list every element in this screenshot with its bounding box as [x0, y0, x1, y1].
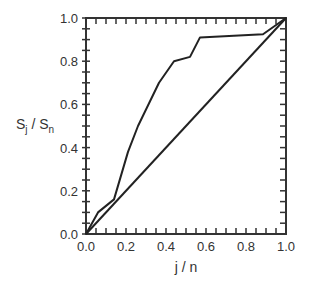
y-tick-labels: 0.00.20.40.60.81.0	[60, 11, 78, 242]
x-tick-label: 1.0	[277, 239, 295, 254]
x-tick-labels: 0.00.20.40.60.81.0	[77, 239, 295, 254]
y-tick-label: 0.2	[60, 184, 78, 199]
x-tick-label: 0.2	[117, 239, 135, 254]
y-tick-label: 0.8	[60, 54, 78, 69]
x-axis-label: j / n	[174, 259, 198, 275]
y-label-s1: S	[16, 116, 25, 132]
y-tick-label: 0.0	[60, 227, 78, 242]
y-axis-label: Sj / Sn	[16, 116, 54, 135]
y-tick-label: 1.0	[60, 11, 78, 26]
y-label-sub-n: n	[49, 124, 55, 135]
data-series	[86, 18, 286, 234]
x-tick-label: 0.4	[157, 239, 175, 254]
diagonal-reference-line	[86, 18, 286, 234]
x-tick-label: 0.6	[197, 239, 215, 254]
x-tick-label: 0.0	[77, 239, 95, 254]
y-label-sep: /	[28, 116, 40, 132]
lorenz-chart: 0.00.20.40.60.81.0 0.00.20.40.60.81.0 j …	[0, 0, 314, 289]
y-tick-label: 0.6	[60, 97, 78, 112]
y-label-s2: S	[39, 116, 48, 132]
y-tick-label: 0.4	[60, 141, 78, 156]
x-tick-label: 0.8	[237, 239, 255, 254]
